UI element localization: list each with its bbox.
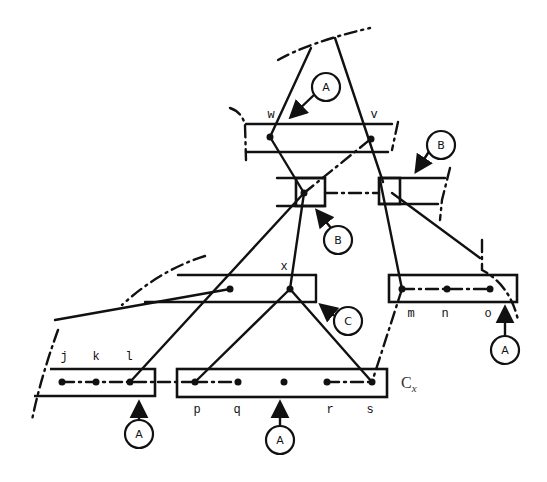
edge-b-l	[130, 193, 304, 382]
label-cx: Cx	[401, 374, 417, 394]
boundary-mid-left	[122, 256, 205, 305]
callout-b-right: B	[417, 131, 455, 170]
callout-a-top: A	[292, 73, 340, 116]
boundary-left	[32, 330, 58, 420]
callout-a-cx: A	[266, 404, 294, 454]
boundary-upper-left	[230, 108, 246, 160]
boundary-b-right	[440, 168, 450, 220]
edge-left-x	[55, 289, 230, 320]
label-o: o	[484, 307, 491, 321]
label-j: j	[60, 350, 67, 364]
label-m: m	[407, 307, 414, 321]
edge-b-v	[304, 138, 372, 193]
svg-text:B: B	[334, 234, 342, 247]
label-w: w	[267, 108, 275, 122]
callout-a-mno: A	[491, 309, 519, 364]
label-v: v	[370, 108, 377, 122]
label-k: k	[92, 350, 99, 364]
callout-b-left: B	[318, 212, 352, 254]
edge-bright-right	[392, 193, 480, 258]
edge-w-b	[270, 137, 304, 193]
label-n: n	[441, 307, 448, 321]
label-q: q	[233, 403, 240, 417]
label-p: p	[193, 403, 200, 417]
box-b-left	[296, 178, 325, 206]
svg-text:B: B	[437, 139, 445, 152]
svg-text:A: A	[135, 428, 143, 441]
label-r: r	[326, 403, 333, 417]
tree-diagram: w v x j k l m n o p q r s Cx A B B C A A	[0, 0, 547, 482]
boundary-top	[278, 28, 370, 60]
label-x: x	[280, 260, 287, 274]
label-s: s	[366, 403, 373, 417]
svg-text:A: A	[322, 81, 330, 94]
nodes	[59, 134, 494, 386]
svg-text:A: A	[276, 434, 284, 447]
boundary-upper-right	[392, 122, 398, 150]
label-l: l	[125, 350, 132, 364]
svg-text:C: C	[344, 315, 352, 328]
svg-text:A: A	[501, 344, 509, 357]
callout-a-jkl: A	[125, 404, 153, 448]
